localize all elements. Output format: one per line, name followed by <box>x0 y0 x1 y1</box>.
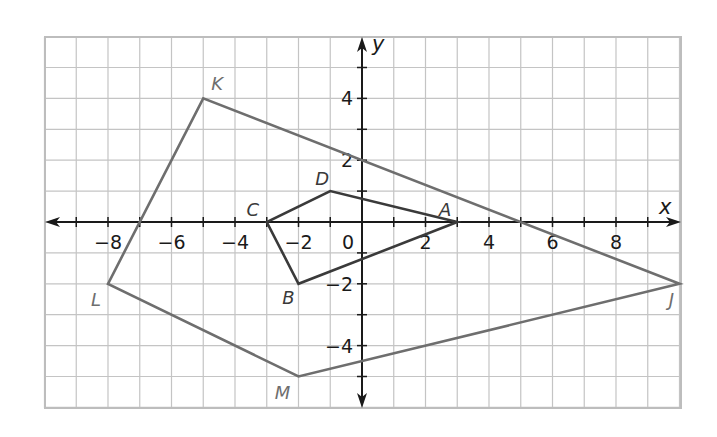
x-tick-label: 8 <box>610 231 622 253</box>
vertex-label-a: A <box>438 199 451 220</box>
vertex-label-m: M <box>275 382 291 403</box>
x-tick-label: −6 <box>157 231 185 253</box>
x-tick-label: −8 <box>94 231 122 253</box>
vertex-label-l: L <box>91 289 101 310</box>
x-tick-label: −2 <box>284 231 312 253</box>
origin-label: 0 <box>342 231 354 253</box>
vertex-label-c: C <box>246 199 259 220</box>
y-axis-label: y <box>371 32 385 56</box>
vertex-label-b: B <box>282 287 294 308</box>
coordinate-plane: −8−6−4−2246842−2−4 ABCDJKLM x y 0 <box>0 0 717 437</box>
y-tick-label: −2 <box>325 273 353 295</box>
vertex-label-d: D <box>315 168 329 189</box>
y-tick-label: 4 <box>341 87 353 109</box>
vertex-label-k: K <box>211 73 224 94</box>
y-tick-label: −4 <box>325 335 353 357</box>
x-tick-label: −4 <box>221 231 249 253</box>
vertex-label-j: J <box>666 289 674 310</box>
x-axis-label: x <box>658 195 672 219</box>
x-tick-label: 4 <box>483 231 495 253</box>
